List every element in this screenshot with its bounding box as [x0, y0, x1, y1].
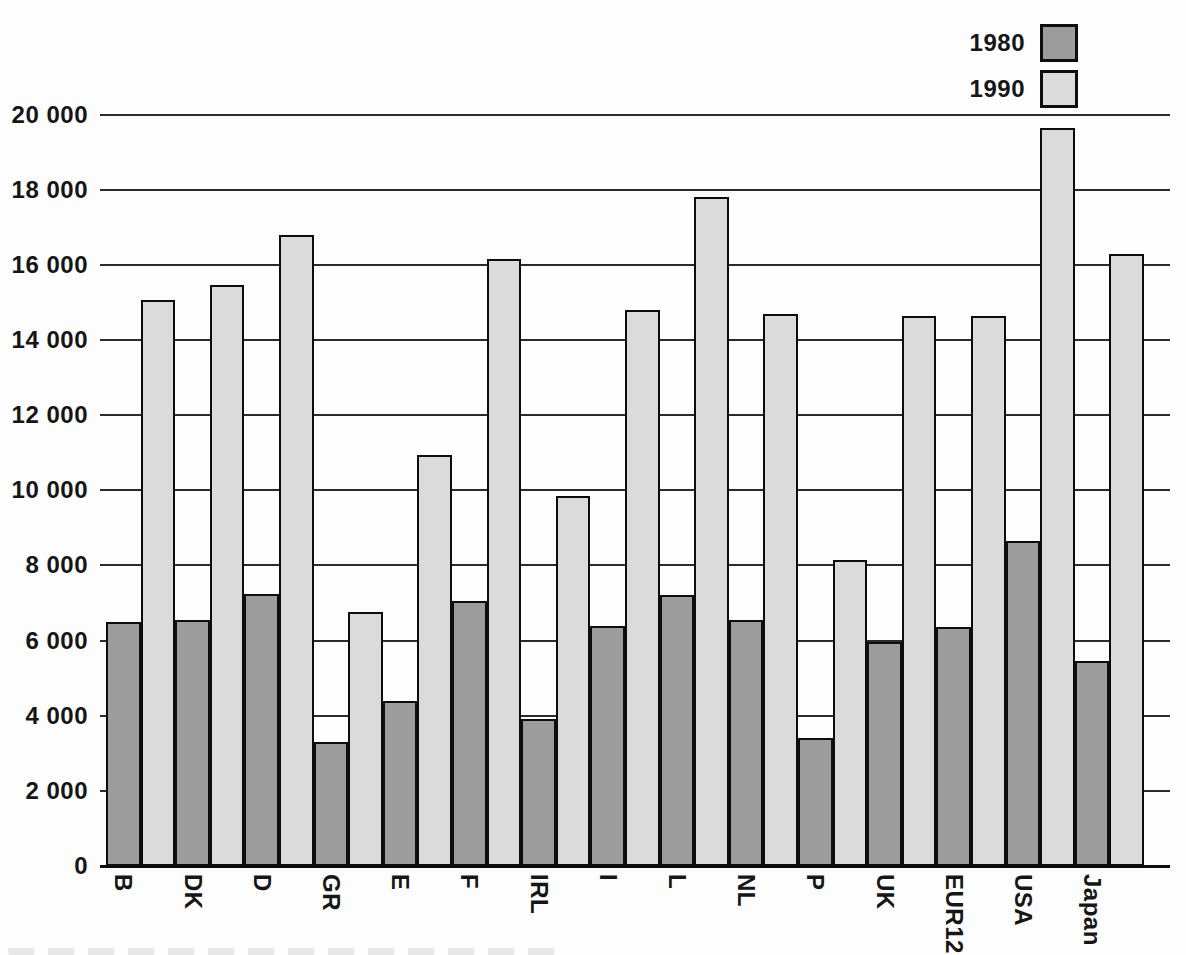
bar-DK-1980 [175, 620, 210, 866]
bar-D-1980 [244, 594, 279, 866]
x-tick-label-IRL: IRL [525, 874, 553, 914]
x-tick-label-DK: DK [179, 874, 207, 910]
x-tick-label-NL: NL [732, 874, 760, 907]
y-tick-label-8000: 8 000 [0, 552, 88, 578]
bar-L-1990 [694, 197, 729, 866]
x-tick-label-UK: UK [871, 874, 899, 910]
y-tick-label-2000: 2 000 [0, 778, 88, 804]
x-tick-label-I: I [594, 874, 622, 881]
x-tick-label-USA: USA [1009, 874, 1037, 926]
y-tick-label-14000: 14 000 [0, 327, 88, 353]
bar-EUR12-1990 [971, 316, 1006, 866]
y-tick-label-16000: 16 000 [0, 252, 88, 278]
y-tick-label-10000: 10 000 [0, 477, 88, 503]
x-tick-label-P: P [801, 874, 829, 891]
bar-UK-1980 [867, 642, 902, 866]
bar-F-1980 [452, 601, 487, 866]
gridline-16000 [100, 264, 1170, 266]
y-tick-label-12000: 12 000 [0, 402, 88, 428]
plot-area: 02 0004 0006 0008 00010 00012 00014 0001… [0, 0, 1186, 955]
bar-E-1990 [417, 455, 452, 866]
bar-GR-1990 [348, 612, 383, 866]
y-tick-label-4000: 4 000 [0, 703, 88, 729]
bar-I-1980 [590, 626, 625, 866]
x-tick-label-B: B [109, 874, 137, 892]
bar-B-1990 [141, 300, 176, 866]
y-tick-label-20000: 20 000 [0, 102, 88, 128]
bar-E-1980 [383, 701, 418, 866]
x-tick-label-L: L [663, 874, 691, 889]
bar-chart-page: 1980 1990 02 0004 0006 0008 00010 00012 … [0, 0, 1186, 955]
x-tick-label-F: F [455, 874, 483, 889]
bar-NL-1990 [763, 314, 798, 866]
x-tick-label-E: E [386, 874, 414, 891]
bar-Japan-1980 [1075, 661, 1110, 866]
bar-P-1990 [833, 560, 868, 866]
bar-USA-1990 [1040, 128, 1075, 866]
bar-F-1990 [487, 259, 522, 866]
x-tick-label-Japan: Japan [1078, 874, 1106, 946]
cut-off-caption-artifact [8, 948, 568, 955]
bar-IRL-1980 [521, 719, 556, 866]
bar-P-1980 [798, 738, 833, 866]
bar-Japan-1990 [1109, 254, 1144, 866]
bar-D-1990 [279, 235, 314, 866]
bar-UK-1990 [902, 316, 937, 866]
bar-IRL-1990 [556, 496, 591, 866]
gridline-18000 [100, 189, 1170, 191]
bar-USA-1980 [1006, 541, 1041, 866]
bar-NL-1980 [729, 620, 764, 866]
bar-GR-1980 [314, 742, 349, 866]
bar-DK-1990 [210, 285, 245, 866]
bar-L-1980 [660, 595, 695, 866]
bar-EUR12-1980 [936, 627, 971, 866]
y-tick-label-0: 0 [0, 853, 88, 879]
x-axis-baseline [100, 865, 1170, 868]
x-tick-label-D: D [248, 874, 276, 892]
bar-B-1980 [106, 622, 141, 866]
x-tick-label-GR: GR [317, 874, 345, 911]
bar-I-1990 [625, 310, 660, 866]
y-tick-label-6000: 6 000 [0, 628, 88, 654]
y-tick-label-18000: 18 000 [0, 177, 88, 203]
x-tick-label-EUR12: EUR12 [940, 874, 968, 954]
gridline-20000 [100, 114, 1170, 116]
